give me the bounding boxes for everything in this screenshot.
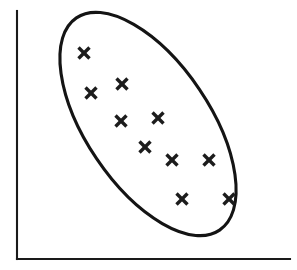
data-point-marker xyxy=(167,155,178,166)
data-point-marker xyxy=(177,194,188,205)
data-point-marker xyxy=(116,116,127,127)
data-point-marker xyxy=(86,88,97,99)
scatter-plot-figure xyxy=(0,0,297,270)
data-point-marker xyxy=(140,142,151,153)
data-markers-group xyxy=(79,48,235,205)
plot-canvas xyxy=(0,0,297,270)
data-point-marker xyxy=(224,194,235,205)
confidence-ellipse-outline xyxy=(25,0,271,265)
data-point-marker xyxy=(79,48,90,59)
confidence-ellipse xyxy=(25,0,271,265)
axes-group xyxy=(17,11,290,259)
data-point-marker xyxy=(117,79,128,90)
data-point-marker xyxy=(204,155,215,166)
data-point-marker xyxy=(153,113,164,124)
